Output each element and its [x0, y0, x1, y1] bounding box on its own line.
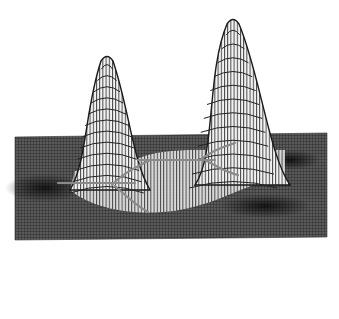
mesh-surface-canvas [0, 0, 339, 319]
trough-contour-lines [120, 243, 140, 295]
surface-plot-figure [0, 0, 339, 319]
shadow-right-bottom [220, 194, 310, 218]
